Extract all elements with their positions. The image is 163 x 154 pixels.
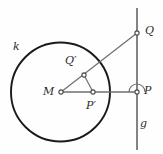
geometry-figure: k M Q′ P′ P Q g [0, 0, 163, 154]
label-point-q: Q [145, 25, 154, 36]
label-point-p-prime: P′ [86, 100, 96, 111]
point-marker-p [135, 90, 139, 94]
label-circle-k: k [13, 41, 20, 52]
label-line-g: g [140, 118, 147, 129]
label-point-p: P [144, 85, 151, 96]
segment-qprime-pprime [84, 75, 93, 92]
point-marker-q [135, 31, 139, 35]
point-marker-qprime [82, 73, 86, 77]
label-point-q-prime: Q′ [65, 55, 77, 66]
diagram-canvas [0, 0, 163, 154]
label-center-m: M [43, 86, 54, 97]
point-marker-m [59, 90, 63, 94]
point-marker-pprime [91, 90, 95, 94]
